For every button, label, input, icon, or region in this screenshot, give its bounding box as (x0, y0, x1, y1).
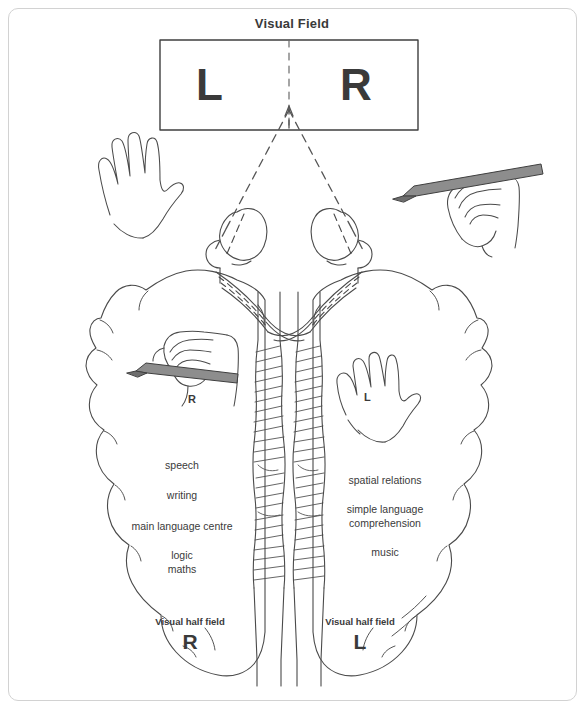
right-visual-half-field-caption: Visual half field (325, 616, 395, 627)
optic-nerve-left (216, 272, 268, 332)
visual-field-right-letter: R (340, 60, 372, 110)
right-visual-half-field-letter: L (354, 630, 367, 654)
hemisphere-surface-folds (97, 291, 481, 657)
left-function-maths: maths (168, 563, 197, 575)
left-function-main-language-centre: main language centre (132, 520, 233, 532)
inner-left-pencil (127, 363, 238, 383)
left-visual-half-field-caption: Visual half field (155, 616, 225, 627)
left-hemisphere-outline (86, 270, 265, 676)
right-function-music: music (371, 546, 398, 558)
left-function-writing: writing (167, 489, 197, 501)
visual-field-left-letter: L (196, 60, 223, 110)
brain-lateralization-diagram: Visual Field L R R L speech writing main… (0, 0, 585, 709)
brainstem-right-tract (293, 292, 325, 686)
right-function-comprehension: comprehension (349, 517, 421, 529)
page-title: Visual Field (255, 16, 329, 31)
diagram-canvas (0, 0, 585, 709)
inner-right-hand-label: L (364, 391, 371, 403)
optic-nerve-right (310, 272, 362, 332)
inner-right-hand (337, 352, 421, 442)
right-hemisphere-outline (313, 270, 492, 676)
right-function-simple-language: simple language (347, 503, 423, 515)
inner-left-hand-label: R (188, 393, 196, 405)
left-visual-half-field-letter: R (182, 630, 197, 654)
optic-chiasm (258, 305, 320, 341)
right-function-spatial-relations: spatial relations (349, 474, 422, 486)
left-function-speech: speech (165, 459, 199, 471)
brainstem-left-tract (253, 292, 285, 686)
external-left-hand (99, 133, 184, 239)
left-function-logic: logic (171, 549, 193, 561)
